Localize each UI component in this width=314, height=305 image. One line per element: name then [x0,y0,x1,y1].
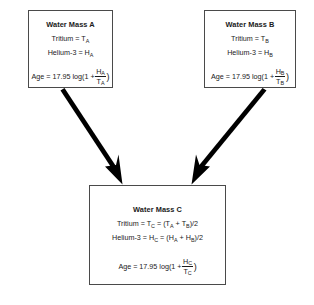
water-mass-a-title: Water Mass A [29,20,112,29]
diagram-canvas: Water Mass A Tritium = TA Helium-3 = HA … [0,0,314,305]
water-mass-a-age-prefix: Age = 17.95 log(1 + [32,72,95,81]
water-mass-c-tritium-p1: Tritium = T [117,219,151,228]
water-mass-b-helium-subscript: B [269,52,273,58]
water-mass-b-age-numerator: HB [275,68,286,77]
water-mass-b-age-prefix: Age = 17.95 log(1 + [211,72,274,81]
water-mass-b-age-numerator-subscript: B [281,70,285,76]
water-mass-c-helium: Helium-3 = HC = (HA + HB)/2 [90,233,225,242]
water-mass-c-helium-p4: )/2 [195,233,203,242]
water-mass-c-helium-p1: Helium-3 = H [112,233,154,242]
water-mass-a-helium-text: Helium-3 = H [48,48,90,57]
water-mass-c-age-denominator: TC [182,268,193,277]
water-mass-a-age-numerator-subscript: A [101,70,105,76]
water-mass-a-helium-subscript: A [90,52,94,58]
water-mass-c-age-suffix: ) [194,262,197,272]
water-mass-a-tritium: Tritium = TA [29,34,112,43]
water-mass-c-age-denominator-subscript: C [188,270,192,276]
water-mass-c-tritium-p2: = (T [155,219,170,228]
water-mass-c-age-numerator: HC [182,258,193,267]
water-mass-c-helium-p3: + H [178,233,191,242]
water-mass-c-tritium-p4: )/2 [190,219,198,228]
arrow-b-to-c [192,88,267,185]
water-mass-b-age-equation: Age = 17.95 log(1 +HBTB) [205,68,295,87]
water-mass-a-age-denominator: TA [95,78,106,87]
water-mass-b-tritium: Tritium = TB [205,34,295,43]
water-mass-a-box: Water Mass A Tritium = TA Helium-3 = HA … [28,10,113,88]
water-mass-b-age-suffix: ) [286,72,289,82]
water-mass-c-tritium-p3: + T [174,219,186,228]
water-mass-b-title: Water Mass B [205,20,295,29]
water-mass-c-tritium: Tritium = TC = (TA + TB)/2 [90,219,225,228]
arrow-a-to-c [61,88,123,185]
water-mass-c-box: Water Mass C Tritium = TC = (TA + TB)/2 … [89,185,226,285]
water-mass-a-age-fraction: HATA [95,68,106,87]
water-mass-c-tritium-sub1: C [151,223,155,229]
water-mass-b-box: Water Mass B Tritium = TB Helium-3 = HB … [204,10,296,88]
water-mass-a-age-equation: Age = 17.95 log(1 +HATA) [29,68,112,87]
water-mass-c-helium-sub3: B [191,237,195,243]
water-mass-b-age-denominator: TB [275,78,286,87]
water-mass-a-age-denominator-subscript: A [101,80,105,86]
water-mass-c-tritium-sub3: B [186,223,190,229]
water-mass-c-age-fraction: HCTC [182,258,193,277]
water-mass-c-age-equation: Age = 17.95 log(1 +HCTC) [90,258,225,277]
water-mass-b-tritium-text: Tritium = T [231,34,265,43]
water-mass-a-helium: Helium-3 = HA [29,48,112,57]
water-mass-b-tritium-subscript: B [265,38,269,44]
water-mass-a-tritium-text: Tritium = T [52,34,86,43]
water-mass-c-age-numerator-subscript: C [188,260,192,266]
water-mass-c-helium-sub2: A [174,237,178,243]
water-mass-c-title: Water Mass C [90,205,225,214]
water-mass-c-helium-p2: = (H [158,233,174,242]
water-mass-a-age-numerator: HA [95,68,106,77]
water-mass-b-age-denominator-subscript: B [280,80,284,86]
water-mass-c-helium-sub1: C [154,237,158,243]
water-mass-c-tritium-sub2: A [170,223,174,229]
water-mass-b-age-fraction: HBTB [275,68,286,87]
water-mass-a-age-suffix: ) [106,72,109,82]
water-mass-b-helium: Helium-3 = HB [205,48,295,57]
water-mass-c-age-prefix: Age = 17.95 log(1 + [118,262,181,271]
water-mass-a-tritium-subscript: A [86,38,90,44]
water-mass-b-helium-text: Helium-3 = H [227,48,269,57]
